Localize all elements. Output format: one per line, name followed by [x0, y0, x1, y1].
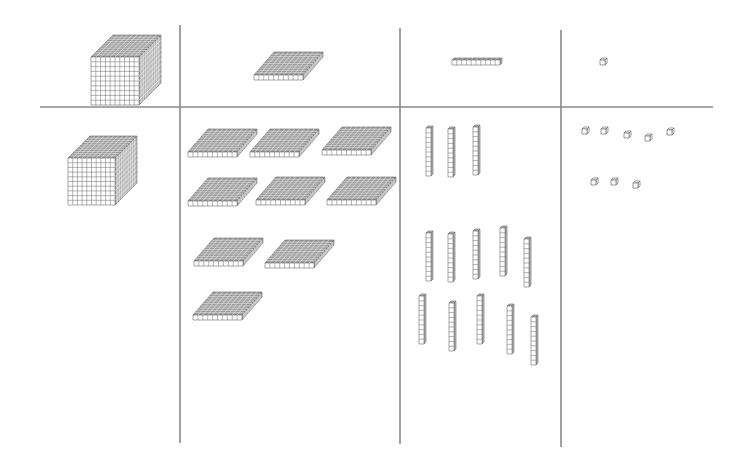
one-unit: [645, 134, 652, 141]
column-ones: [582, 127, 674, 188]
one-unit: [582, 127, 589, 134]
column-tens: [419, 125, 538, 365]
header-row: [91, 35, 607, 105]
ten-rod: [507, 304, 514, 354]
hundred-flat: [256, 177, 325, 205]
ten-rod: [419, 294, 426, 344]
ten-rod: [531, 315, 538, 365]
ten-rod: [449, 301, 456, 351]
hundred-flat: [265, 240, 334, 268]
column-hundreds: [188, 127, 396, 320]
ten-rod: [448, 127, 455, 177]
ten-rod: [426, 126, 433, 176]
ten-rod: [524, 237, 531, 287]
one-unit: [600, 58, 607, 65]
ten-rod: [452, 58, 502, 65]
one-unit: [601, 127, 608, 134]
ten-rod: [477, 294, 484, 344]
one-unit: [633, 181, 640, 188]
hundred-flat: [193, 292, 262, 320]
hundred-flat: [188, 129, 257, 157]
hundred-flat: [327, 177, 396, 205]
ten-rod: [426, 231, 433, 281]
ten-rod: [473, 125, 480, 175]
column-thousands: [68, 136, 137, 205]
one-unit: [591, 178, 598, 185]
hundred-flat: [254, 52, 323, 80]
one-unit: [624, 131, 631, 138]
thousand-cube: [68, 136, 137, 205]
ten-rod: [500, 226, 507, 276]
ten-rod: [473, 229, 480, 279]
one-unit: [667, 128, 674, 135]
place-value-board: [0, 0, 751, 463]
hundred-flat: [194, 238, 263, 266]
hundred-flat: [250, 129, 319, 157]
ten-rod: [448, 232, 455, 282]
thousand-cube: [91, 35, 161, 105]
hundred-flat: [188, 178, 257, 206]
one-unit: [611, 178, 618, 185]
hundred-flat: [322, 127, 391, 155]
